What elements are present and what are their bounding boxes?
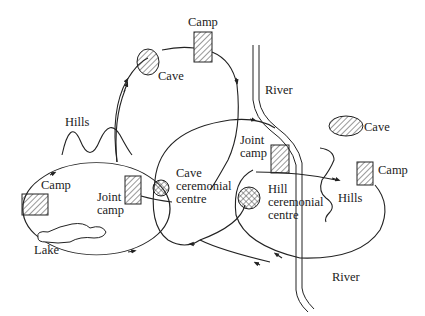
cave-right-icon — [329, 116, 363, 136]
label-cave-top: Cave — [158, 69, 184, 83]
label-hill-cc-1: Hill — [268, 182, 288, 196]
joint-camp-left-icon — [125, 176, 141, 204]
label-hill-cc-3: centre — [268, 208, 299, 222]
label-cave-cc-3: centre — [176, 192, 207, 206]
label-hill-cc-2: ceremonial — [268, 195, 324, 209]
territory-diagram: Camp Cave Hills Camp Joint camp Cave cer… — [0, 0, 425, 316]
label-hills-right: Hills — [338, 191, 362, 205]
camp-top-icon — [194, 32, 212, 62]
label-camp-top: Camp — [188, 15, 218, 29]
camp-left-icon — [22, 194, 48, 215]
label-joint-camp-right-2: camp — [240, 146, 267, 160]
joint-camp-right-icon — [271, 145, 289, 173]
cave-top-icon — [137, 49, 159, 75]
hills-right-feature — [320, 148, 334, 222]
lake-feature — [38, 224, 106, 244]
label-hills-left: Hills — [65, 115, 89, 129]
cave-ceremonial-centre-icon — [153, 180, 169, 196]
label-camp-left: Camp — [41, 178, 71, 192]
camp-right-icon — [357, 162, 373, 185]
label-lake: Lake — [34, 243, 59, 257]
hill-ceremonial-centre-icon — [238, 187, 260, 209]
label-joint-camp-left-1: Joint — [97, 190, 122, 204]
hills-left-feature — [62, 128, 132, 155]
label-river-top: River — [265, 83, 294, 97]
label-camp-right: Camp — [378, 163, 408, 177]
label-cave-cc-2: ceremonial — [176, 179, 232, 193]
label-cave-cc-1: Cave — [176, 166, 202, 180]
label-river-bottom: River — [332, 270, 361, 284]
label-joint-camp-right-1: Joint — [240, 133, 265, 147]
label-cave-right: Cave — [364, 120, 390, 134]
label-joint-camp-left-2: camp — [97, 203, 124, 217]
